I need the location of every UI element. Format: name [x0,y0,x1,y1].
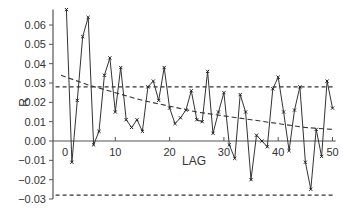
x-tick-label: 20 [163,146,175,158]
x-tick-label: 30 [218,146,230,158]
y-tick-label: 0.01 [25,116,46,128]
y-tick-label: −0.01 [18,154,46,166]
x-tick-label: 40 [272,146,284,158]
y-tick-label: 0.03 [25,77,46,89]
autocorrelation-chart: 0.060.050.040.030.020.010.00−0.01−0.02−0… [0,0,353,214]
y-tick-label: −0.03 [18,193,46,205]
x-tick-label: 10 [109,146,121,158]
y-tick-label: −0.02 [18,174,46,186]
y-tick-label: 0.06 [25,19,46,31]
y-tick-label: 0.00 [25,135,46,147]
x-tick-label: 50 [326,146,338,158]
y-axis-title: R [17,98,31,107]
y-tick-label: 0.05 [25,38,46,50]
x-tick-label: 0 [62,146,68,158]
data-point-marker [179,116,182,119]
x-axis-title: LAG [182,154,206,168]
y-tick-label: 0.04 [25,58,46,70]
data-point-marker [130,126,133,129]
